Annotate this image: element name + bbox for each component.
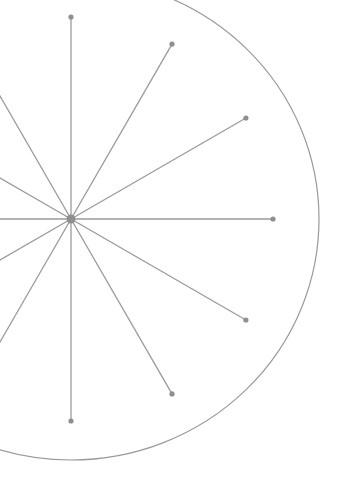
spoke-end-node (68, 14, 73, 19)
spoke-line (71, 44, 172, 219)
spoke-line (0, 118, 71, 219)
spoke-line (0, 219, 71, 320)
spoke-line (71, 118, 246, 219)
spoke-line (0, 44, 71, 219)
spoke-line (0, 219, 71, 394)
spoke-line (71, 219, 172, 394)
spokes-group (0, 14, 276, 423)
spoke-end-node (243, 317, 248, 322)
spoke-end-node (169, 391, 174, 396)
spoke-end-node (243, 115, 248, 120)
spoke-end-node (270, 216, 275, 221)
outer-ring (0, 0, 319, 460)
spoke-line (71, 219, 246, 320)
radial-spoke-diagram (0, 0, 340, 492)
center-hub (67, 215, 76, 224)
spoke-end-node (68, 418, 73, 423)
spoke-end-node (169, 42, 174, 47)
